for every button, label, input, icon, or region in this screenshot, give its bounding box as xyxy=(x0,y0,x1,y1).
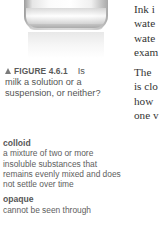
glossary-definition-opaque: cannot be seen through xyxy=(3,205,121,215)
figure-label: FIGURE 4.6.1 xyxy=(14,66,68,76)
caption-text: milk a solution or a suspension, or neit… xyxy=(5,77,101,98)
triangle-up-icon xyxy=(5,68,11,74)
glossary-term-colloid: colloid xyxy=(3,138,121,148)
body-line: one v xyxy=(134,109,159,121)
body-line: is clo xyxy=(134,80,158,92)
body-line: Ink i xyxy=(134,3,155,15)
body-line: wate xyxy=(134,32,155,44)
glossary-definition-colloid: a mixture of two or more insoluble subst… xyxy=(3,148,121,189)
milk-glass-photo xyxy=(0,0,120,60)
body-line: exam xyxy=(134,46,158,58)
caption-first-word: Is xyxy=(78,66,85,76)
glass-rim xyxy=(28,24,104,30)
body-line: how xyxy=(134,95,153,107)
glass-reflection xyxy=(28,32,104,58)
body-paragraph-1: Ink i wate wate exam xyxy=(134,2,163,59)
body-line: wate xyxy=(134,17,155,29)
body-paragraph-2: The is clo how one v xyxy=(134,65,163,122)
figure-caption: FIGURE 4.6.1Is milk a solution or a susp… xyxy=(5,66,117,99)
glossary: colloid a mixture of two or more insolub… xyxy=(3,138,121,220)
body-line: The xyxy=(134,66,151,78)
glossary-term-opaque: opaque xyxy=(3,194,121,204)
body-text: Ink i wate wate exam The is clo how one … xyxy=(134,2,163,128)
